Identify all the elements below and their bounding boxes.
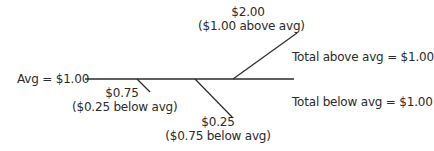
deviation-line-2.00 [233, 33, 297, 79]
point-value: $0.75 [72, 86, 172, 100]
total-above-label: Total above avg = $1.00 [292, 50, 434, 64]
point-note: ($1.00 above avg) [198, 19, 298, 33]
point-label-2.00: $2.00 ($1.00 above avg) [198, 5, 298, 33]
point-note: ($0.75 below avg) [163, 129, 273, 143]
deviation-line-0.25 [195, 79, 233, 118]
point-value: $0.25 [163, 115, 273, 129]
point-value: $2.00 [198, 5, 298, 19]
average-label: Avg = $1.00 [17, 72, 89, 86]
point-label-0.25: $0.25 ($0.75 below avg) [163, 115, 273, 143]
total-below-label: Total below avg = $1.00 [292, 95, 433, 109]
point-label-0.75: $0.75 ($0.25 below avg) [72, 86, 172, 114]
point-note: ($0.25 below avg) [72, 100, 172, 114]
